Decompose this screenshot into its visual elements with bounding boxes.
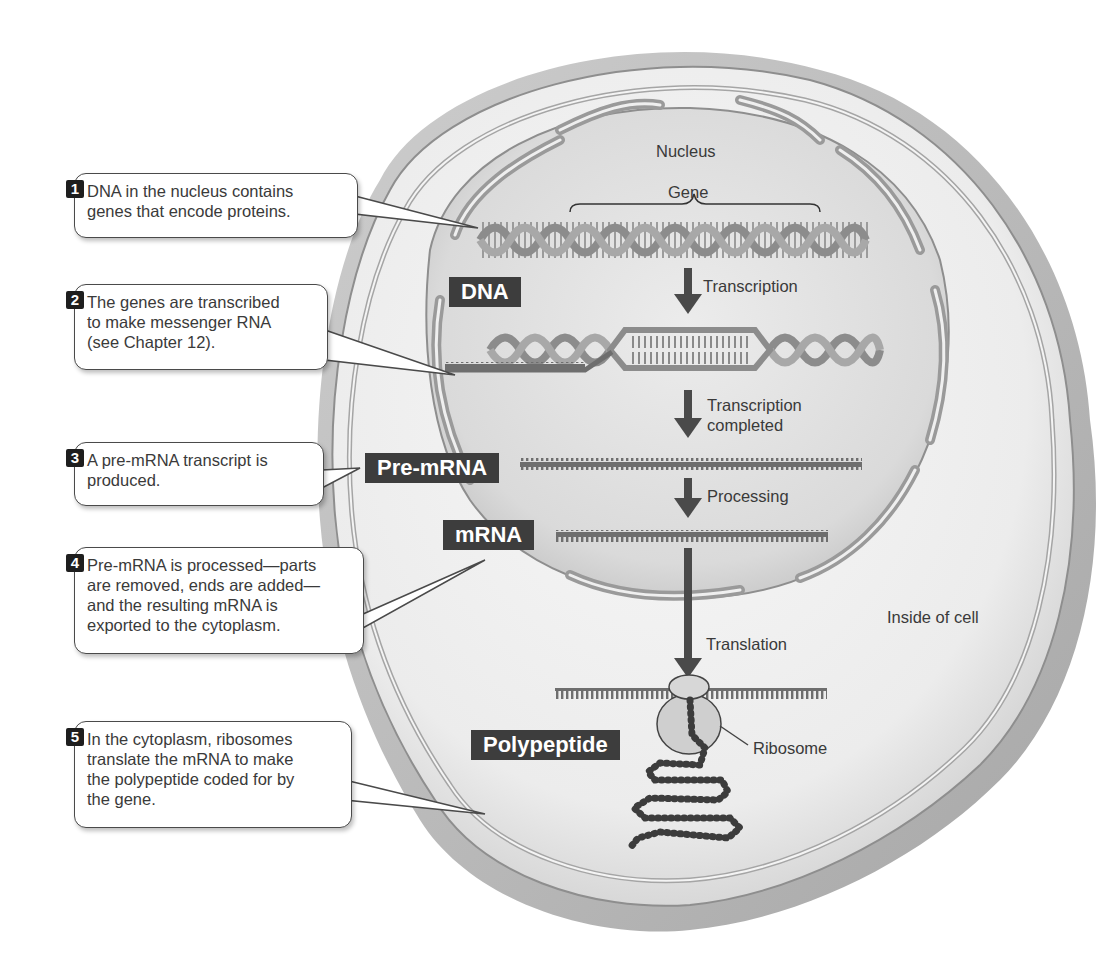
step-4-number-badge: 4 [66, 554, 84, 572]
step-3-callout: 3 A pre-mRNA transcript is produced. [74, 442, 324, 506]
processing-label: Processing [707, 486, 789, 506]
transcription-completed-line2: completed [707, 415, 802, 435]
translation-label: Translation [706, 634, 787, 654]
inside-of-cell-label: Inside of cell [887, 607, 979, 627]
mrna-tag: mRNA [443, 520, 534, 550]
ribosome-small-subunit [669, 675, 709, 699]
gene-label: Gene [668, 182, 708, 202]
mrna-strand [556, 530, 828, 542]
transcription-completed-line1: Transcription [707, 395, 802, 415]
step-2-line-3: (see Chapter 12). [87, 332, 317, 352]
step-2-callout: 2 The genes are transcribed to make mess… [74, 284, 328, 370]
polypeptide-tag: Polypeptide [471, 730, 620, 760]
step-4-line-2: are removed, ends are added— [87, 575, 353, 595]
ribosome-label: Ribosome [753, 738, 827, 758]
gene-expression-diagram: Nucleus Gene Inside of cell Ribosome Tra… [0, 0, 1117, 967]
step-1-number-badge: 1 [66, 180, 84, 198]
transcription-completed-label: Transcription completed [707, 395, 802, 435]
step-2-line-2: to make messenger RNA [87, 312, 317, 332]
step-4-line-4: exported to the cytoplasm. [87, 615, 353, 635]
step-5-number-badge: 5 [66, 728, 84, 746]
step-5-callout: 5 In the cytoplasm, ribosomes translate … [74, 721, 352, 828]
step-2-number-badge: 2 [66, 291, 84, 309]
step-4-callout: 4 Pre-mRNA is processed—parts are remove… [74, 547, 364, 654]
step-5-line-1: In the cytoplasm, ribosomes [87, 729, 341, 749]
step-3-number-badge: 3 [66, 449, 84, 467]
step-4-line-1: Pre-mRNA is processed—parts [87, 555, 353, 575]
step-3-line-1: A pre-mRNA transcript is [87, 450, 313, 470]
nucleus-label: Nucleus [656, 141, 716, 161]
step-2-line-1: The genes are transcribed [87, 292, 317, 312]
step-3-line-2: produced. [87, 470, 313, 490]
step-1-line-1: DNA in the nucleus contains [87, 181, 347, 201]
step-1-callout: 1 DNA in the nucleus contains genes that… [74, 173, 358, 238]
pre-mrna-strand [520, 458, 862, 470]
transcription-label: Transcription [703, 276, 798, 296]
step-5-line-3: the polypeptide coded for by [87, 769, 341, 789]
step-5-line-4: the gene. [87, 789, 341, 809]
dna-double-helix [478, 222, 868, 258]
pre-mrna-tag: Pre-mRNA [365, 453, 499, 483]
step-1-line-2: genes that encode proteins. [87, 201, 347, 221]
step-5-line-2: translate the mRNA to make [87, 749, 341, 769]
step-4-line-3: and the resulting mRNA is [87, 595, 353, 615]
dna-tag: DNA [449, 277, 521, 307]
